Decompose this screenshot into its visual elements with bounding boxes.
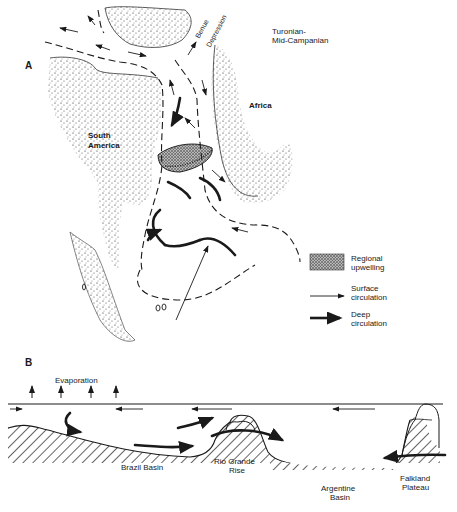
rio-grande-rise-label-line2: Rise (229, 466, 245, 475)
brazil-basin-label: Brazil Basin (121, 463, 163, 472)
panel-b-letter: B (25, 357, 32, 368)
legend-deep-label-line1: Deep (351, 310, 370, 319)
argentine-basin-label-line1: Argentine (321, 484, 355, 493)
panel-a-map (45, 7, 344, 342)
panel-b-section (0, 386, 457, 512)
argentine-basin-label-line2: Basin (330, 493, 350, 502)
africa-north-landmass (105, 7, 191, 48)
africa-label: Africa (249, 101, 272, 110)
south-america-south-coast (70, 232, 135, 341)
falkland-plateau-label-line1: Falkland (400, 474, 430, 483)
africa-landmass (212, 45, 293, 203)
legend-upwelling-label-line2: upwelling (351, 263, 384, 272)
legend-deep-label-line2: circulation (351, 319, 387, 328)
legend-surface-label-line2: circulation (351, 293, 387, 302)
rio-grande-rise-label-line1: Rio Grande (214, 457, 255, 466)
figure-canvas (0, 0, 457, 512)
evaporation-label: Evaporation (55, 376, 98, 385)
legend-upwelling-label-line1: Regional (351, 254, 383, 263)
south-america-label-line2: America (88, 141, 120, 150)
south-america-label-line1: South (88, 131, 111, 140)
regional-upwelling-patch (158, 144, 212, 172)
panel-a-letter: A (25, 60, 32, 71)
legend-upwelling-swatch (310, 254, 344, 270)
falkland-plateau-label-line2: Plateau (402, 483, 429, 492)
legend-surface-label-line1: Surface (351, 284, 379, 293)
time-period-label-line2: Mid-Campanian (272, 36, 328, 45)
time-period-label-line1: Turonian- (272, 27, 306, 36)
